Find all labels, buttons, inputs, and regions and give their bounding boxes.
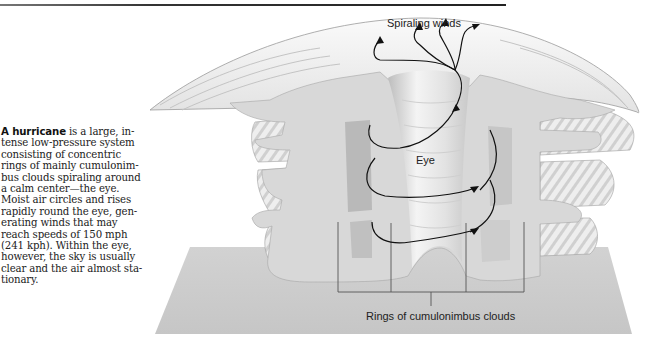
caption-line: tionary. (1, 274, 159, 285)
caption-line: tense low-pressure system (1, 137, 159, 148)
caption-line: a calm center—the eye. (1, 183, 159, 194)
caption-line: however, the sky is usually (1, 251, 159, 262)
caption-line: clear and the air almost sta- (1, 263, 159, 274)
caption-line: (241 kph). Within the eye, (1, 240, 159, 251)
cloud-cavity (480, 220, 510, 262)
spiraling-winds-label: Spiraling winds (387, 17, 461, 29)
caption-line: reach speeds of 150 mph (1, 229, 159, 240)
caption-line: bus clouds spiraling around (1, 172, 159, 183)
cloud-cavity (345, 120, 372, 212)
caption-line: erating winds that may (1, 217, 159, 228)
caption-lead: A hurricane (1, 126, 66, 137)
caption-line: rings of mainly cumulonim- (1, 160, 159, 171)
eye-label: Eye (416, 154, 435, 166)
caption-line-1: A hurricane is a large, in- (1, 126, 159, 137)
figure-caption: A hurricane is a large, in- tense low-pr… (1, 126, 159, 286)
caption-line: rapidly round the eye, gen- (1, 206, 159, 217)
cloud-cavity (488, 126, 512, 206)
cloud-cavity (350, 220, 372, 258)
top-rule-divider (0, 4, 506, 6)
rings-label: Rings of cumulonimbus clouds (366, 310, 515, 322)
hurricane-illustration (150, 14, 662, 351)
caption-line: Moist air circles and rises (1, 194, 159, 205)
caption-line: consisting of concentric (1, 149, 159, 160)
